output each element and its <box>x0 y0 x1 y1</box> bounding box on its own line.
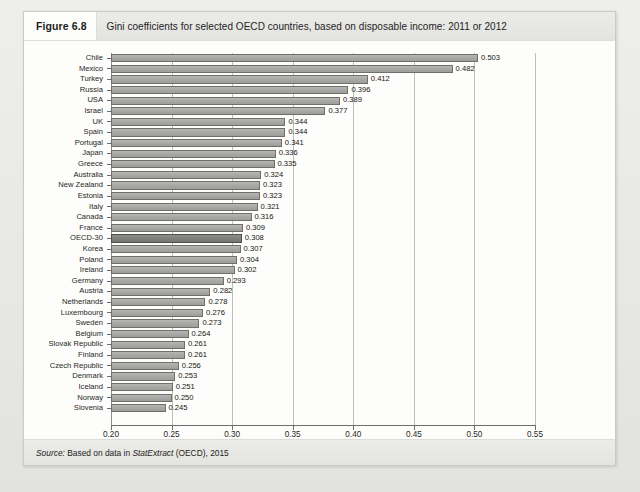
x-axis-tick-label: 0.30 <box>224 430 240 439</box>
bar-value-label: 0.245 <box>166 403 188 414</box>
category-label: Russia <box>24 85 107 96</box>
bar-track: 0.278 <box>111 297 615 308</box>
bar-value-label: 0.323 <box>260 191 282 202</box>
category-label: Australia <box>24 170 107 181</box>
bar[interactable] <box>111 86 348 94</box>
category-label: Poland <box>24 255 107 266</box>
bar-value-label: 0.344 <box>285 127 307 138</box>
category-label: Canada <box>24 212 107 223</box>
chart-row: Portugal0.341 <box>24 138 615 149</box>
bar-value-label: 0.264 <box>189 329 211 340</box>
chart-row: USA0.389 <box>24 95 615 106</box>
bar[interactable] <box>111 107 325 115</box>
bar-track: 0.377 <box>111 106 615 117</box>
chart-row: Slovenia0.245 <box>24 403 615 414</box>
chart-row: Greece0.335 <box>24 159 615 170</box>
bar-track: 0.341 <box>111 138 615 149</box>
bar[interactable] <box>111 203 258 211</box>
bar[interactable] <box>111 54 478 62</box>
bar-value-label: 0.302 <box>235 265 257 276</box>
figure-title-band: Gini coefficients for selected OECD coun… <box>96 12 615 40</box>
source-publication: StatExtract <box>132 448 173 458</box>
category-label: Italy <box>24 202 107 213</box>
bar[interactable] <box>111 309 203 317</box>
bar[interactable] <box>111 160 275 168</box>
bar-value-label: 0.482 <box>453 64 475 75</box>
bar-track: 0.251 <box>111 382 615 393</box>
bar[interactable] <box>111 298 205 306</box>
bar[interactable] <box>111 245 241 253</box>
chart-row: Italy0.321 <box>24 202 615 213</box>
bar[interactable] <box>111 150 276 158</box>
bar[interactable] <box>111 118 285 126</box>
bar-value-label: 0.377 <box>325 106 347 117</box>
bar[interactable] <box>111 341 185 349</box>
bar-track: 0.389 <box>111 95 615 106</box>
bar-track: 0.307 <box>111 244 615 255</box>
x-axis-tick-label: 0.50 <box>466 430 482 439</box>
category-label: Greece <box>24 159 107 170</box>
bar-value-label: 0.273 <box>199 318 221 329</box>
x-axis-tick-label: 0.25 <box>164 430 180 439</box>
bar-track: 0.276 <box>111 308 615 319</box>
bar-track: 0.302 <box>111 265 615 276</box>
category-label: Slovenia <box>24 403 107 414</box>
bar-value-label: 0.344 <box>285 117 307 128</box>
bar-track: 0.344 <box>111 127 615 138</box>
bar-value-label: 0.309 <box>243 223 265 234</box>
bar[interactable] <box>111 97 340 105</box>
bar[interactable] <box>111 139 282 147</box>
bar[interactable] <box>111 128 285 136</box>
bar-value-label: 0.412 <box>368 74 390 85</box>
chart-row: Finland0.261 <box>24 350 615 361</box>
x-axis-tick-label: 0.45 <box>406 430 422 439</box>
chart-row: France0.309 <box>24 223 615 234</box>
bar-track: 0.309 <box>111 223 615 234</box>
bar-track: 0.273 <box>111 318 615 329</box>
bar[interactable] <box>111 224 243 232</box>
category-label: Luxembourg <box>24 308 107 319</box>
bar-track: 0.321 <box>111 202 615 213</box>
bar[interactable] <box>111 256 237 264</box>
chart-row: Estonia0.323 <box>24 191 615 202</box>
bar[interactable] <box>111 288 210 296</box>
category-label: Belgium <box>24 329 107 340</box>
bar[interactable] <box>111 404 166 412</box>
bar-track: 0.323 <box>111 180 615 191</box>
bar[interactable] <box>111 65 453 73</box>
category-label: Germany <box>24 276 107 287</box>
bar[interactable] <box>111 192 260 200</box>
bar[interactable] <box>111 266 235 274</box>
bar[interactable] <box>111 351 185 359</box>
bar-track: 0.304 <box>111 255 615 266</box>
chart-row: Ireland0.302 <box>24 265 615 276</box>
bar[interactable] <box>111 319 199 327</box>
bar[interactable] <box>111 171 261 179</box>
bar-value-label: 0.253 <box>175 371 197 382</box>
bar[interactable] <box>111 75 368 83</box>
bar-track: 0.344 <box>111 117 615 128</box>
bar[interactable] <box>111 372 175 380</box>
bar-value-label: 0.389 <box>340 95 362 106</box>
bar-track: 0.323 <box>111 191 615 202</box>
bar[interactable] <box>111 277 224 285</box>
bar[interactable] <box>111 394 172 402</box>
chart-row: OECD-300.308 <box>24 233 615 244</box>
category-label: New Zealand <box>24 180 107 191</box>
bar[interactable] <box>111 362 179 370</box>
chart-row: New Zealand0.323 <box>24 180 615 191</box>
bar[interactable] <box>111 181 260 189</box>
bar-value-label: 0.336 <box>276 148 298 159</box>
bar[interactable] <box>111 383 173 391</box>
bar[interactable] <box>111 213 252 221</box>
chart-row: Israel0.377 <box>24 106 615 117</box>
chart-row: Poland0.304 <box>24 255 615 266</box>
x-axis-tick-label: 0.40 <box>345 430 361 439</box>
category-label: OECD-30 <box>24 233 107 244</box>
chart-row: Russia0.396 <box>24 85 615 96</box>
bar[interactable] <box>111 330 189 338</box>
category-label: Spain <box>24 127 107 138</box>
category-label: Sweden <box>24 318 107 329</box>
bar-value-label: 0.256 <box>179 361 201 372</box>
bar[interactable] <box>111 234 242 242</box>
